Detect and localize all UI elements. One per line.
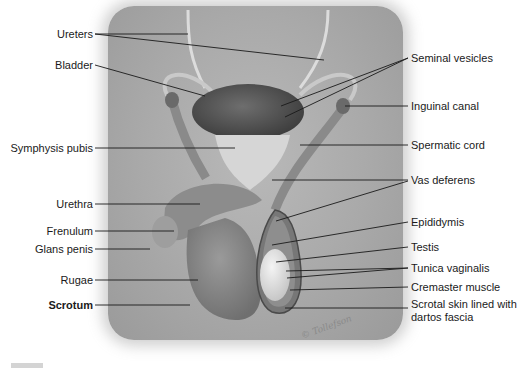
anatomy-figure: Ureters Bladder Symphysis pubis Urethra … — [0, 0, 521, 368]
label-seminal-vesicles: Seminal vesicles — [411, 52, 493, 64]
label-tunica-vaginalis: Tunica vaginalis — [411, 262, 489, 274]
figure-number-tab — [11, 363, 43, 368]
label-urethra: Urethra — [56, 198, 93, 210]
label-spermatic-cord: Spermatic cord — [411, 139, 485, 151]
label-frenulum: Frenulum — [47, 225, 93, 237]
label-cremaster-muscle: Cremaster muscle — [411, 281, 500, 293]
label-dartos-fascia: dartos fascia — [411, 311, 473, 323]
label-scrotal-skin: Scrotal skin lined with — [411, 298, 517, 310]
testis-shape — [260, 249, 290, 301]
glans-shape — [152, 216, 178, 248]
bladder-shape — [192, 84, 304, 140]
label-ureters: Ureters — [57, 28, 93, 40]
label-scrotum: Scrotum — [48, 299, 93, 311]
label-rugae: Rugae — [61, 274, 93, 286]
label-inguinal-canal: Inguinal canal — [411, 100, 479, 112]
label-testis: Testis — [411, 241, 439, 253]
label-glans-penis: Glans penis — [35, 243, 93, 255]
label-bladder: Bladder — [55, 59, 93, 71]
scrotum-shape — [187, 218, 261, 320]
label-vas-deferens: Vas deferens — [411, 174, 475, 186]
label-symphysis-pubis: Symphysis pubis — [10, 142, 93, 154]
ureter-right — [300, 10, 328, 88]
label-epididymis: Epididymis — [411, 216, 464, 228]
